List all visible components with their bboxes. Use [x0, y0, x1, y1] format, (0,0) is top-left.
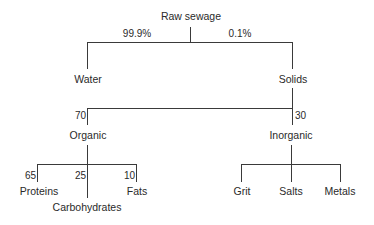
node-carbohydrates: Carbohydrates	[53, 201, 122, 213]
edge-label-fats: 10	[124, 170, 135, 182]
edge-label-proteins: 65	[25, 170, 36, 182]
edge-label-solids: 0.1%	[229, 28, 252, 40]
node-fats: Fats	[127, 185, 147, 197]
node-raw-sewage: Raw sewage	[161, 10, 221, 22]
edge-label-inorganic: 30	[295, 110, 306, 122]
edge-label-water: 99.9%	[123, 28, 151, 40]
node-proteins: Proteins	[20, 185, 59, 197]
node-metals: Metals	[325, 185, 356, 197]
edge-label-organic: 70	[75, 110, 86, 122]
node-solids: Solids	[279, 73, 308, 85]
sewage-composition-tree: Raw sewage Water Solids Organic Inorgani…	[0, 0, 374, 225]
edge-label-carbohydrates: 25	[75, 170, 86, 182]
node-water: Water	[74, 73, 102, 85]
node-inorganic: Inorganic	[269, 129, 312, 141]
node-salts: Salts	[279, 185, 302, 197]
node-organic: Organic	[70, 129, 107, 141]
node-grit: Grit	[234, 185, 251, 197]
